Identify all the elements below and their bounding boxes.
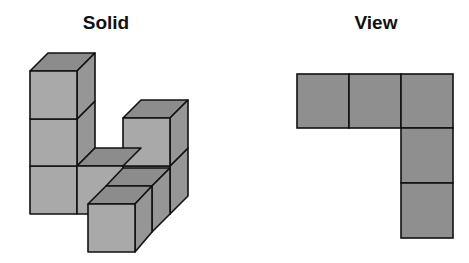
cube-front [88,186,152,252]
view-cell-r2c3 [401,128,453,183]
cube-left-top [30,53,95,119]
view-cell-r1c1 [297,74,349,128]
view-figure [297,74,453,238]
figure-canvas [0,0,469,263]
view-cell-r3c3 [401,183,453,238]
view-cell-r1c2 [349,74,401,128]
view-cell-r1c3 [401,74,453,128]
cube-left-bottom [30,166,77,214]
solid-figure [30,53,188,252]
